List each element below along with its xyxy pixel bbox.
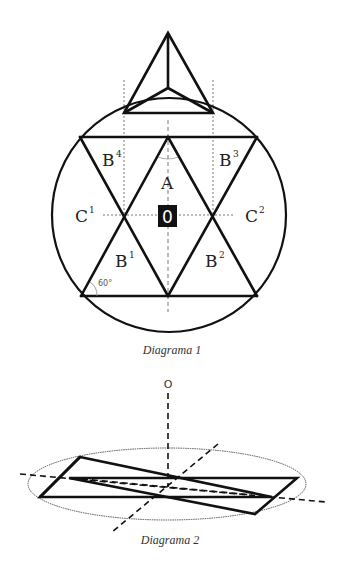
- label-B3: B: [219, 150, 232, 170]
- label-C2: C: [245, 206, 258, 226]
- label-C2-sup: 2: [259, 205, 265, 215]
- label-B1-sup: 1: [129, 250, 135, 260]
- label-C1-sup: 1: [89, 205, 95, 215]
- center-label: 0: [162, 207, 173, 227]
- label-B2: B: [205, 251, 218, 271]
- label-B2-sup: 2: [219, 250, 225, 260]
- angle-label: 60°: [98, 279, 112, 288]
- angle-arc: [90, 282, 97, 296]
- label-A: A: [160, 173, 174, 193]
- diagram-2: O Diagrama 2: [20, 378, 326, 547]
- label-B4-sup: 4: [116, 149, 122, 159]
- base-ellipse: [28, 448, 306, 520]
- label-C1: C: [75, 206, 88, 226]
- axes: [20, 393, 326, 532]
- apex-label: O: [164, 378, 173, 391]
- diagrams-canvas: 60° 0 A B 4 B 3 B 1 B 2 C 1 C 2 Diagrama…: [0, 0, 345, 574]
- caption-diagram-2: Diagrama 2: [140, 533, 199, 547]
- caption-diagram-1: Diagrama 1: [142, 343, 201, 357]
- diagram-1: 60° 0 A B 4 B 3 B 1 B 2 C 1 C 2 Diagrama…: [52, 33, 286, 357]
- label-B4: B: [102, 150, 115, 170]
- label-B1: B: [115, 251, 128, 271]
- guide-lines: [103, 80, 235, 312]
- label-B3-sup: 3: [233, 149, 239, 159]
